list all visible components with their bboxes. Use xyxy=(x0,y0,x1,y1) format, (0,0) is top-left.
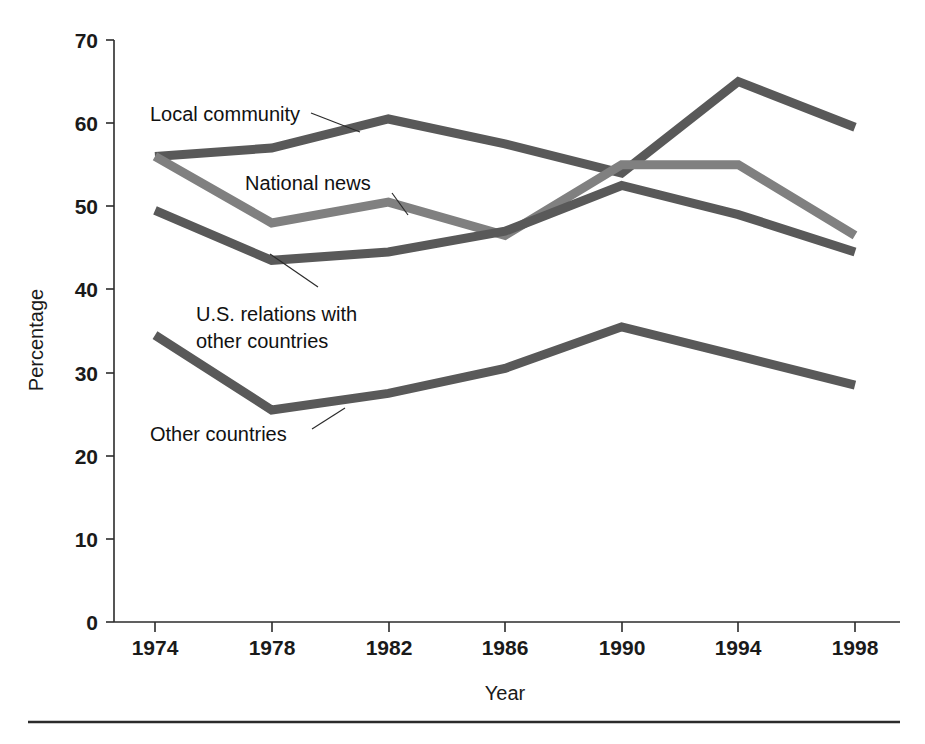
x-axis: 1974 1978 1982 1986 1990 1994 1998 Year xyxy=(114,622,900,704)
y-tick-label-20: 20 xyxy=(75,445,98,468)
line-chart: 70 60 50 40 30 20 10 0 Percentage 1974 1… xyxy=(0,0,925,744)
series-layer xyxy=(155,82,855,410)
chart-figure: 70 60 50 40 30 20 10 0 Percentage 1974 1… xyxy=(0,0,925,744)
series-line-0 xyxy=(155,82,855,173)
x-tick-label-1998: 1998 xyxy=(832,636,879,659)
x-tick-label-1982: 1982 xyxy=(366,636,413,659)
annotation-us-relations-line1: U.S. relations with xyxy=(196,303,357,325)
x-tick-label-1994: 1994 xyxy=(715,636,762,659)
y-tick-label-70: 70 xyxy=(75,29,98,52)
leader-other-countries xyxy=(312,408,345,429)
annotation-national-news: National news xyxy=(245,172,371,194)
y-tick-label-40: 40 xyxy=(75,278,98,301)
series-line-2 xyxy=(155,186,855,261)
annotation-other-countries: Other countries xyxy=(150,423,287,445)
annotation-leaders xyxy=(270,113,408,429)
x-tick-label-1974: 1974 xyxy=(132,636,179,659)
annotation-local-community: Local community xyxy=(150,103,300,125)
series-line-1 xyxy=(155,156,855,235)
y-tick-label-30: 30 xyxy=(75,362,98,385)
y-axis-title: Percentage xyxy=(25,289,47,391)
x-tick-label-1978: 1978 xyxy=(249,636,296,659)
y-axis: 70 60 50 40 30 20 10 0 Percentage xyxy=(25,29,114,634)
y-tick-label-60: 60 xyxy=(75,112,98,135)
x-tick-label-1990: 1990 xyxy=(599,636,646,659)
y-tick-label-10: 10 xyxy=(75,528,98,551)
x-axis-title: Year xyxy=(485,682,526,704)
annotation-us-relations-line2: other countries xyxy=(196,330,328,352)
y-tick-label-50: 50 xyxy=(75,195,98,218)
x-tick-label-1986: 1986 xyxy=(482,636,529,659)
y-tick-label-0: 0 xyxy=(86,611,98,634)
